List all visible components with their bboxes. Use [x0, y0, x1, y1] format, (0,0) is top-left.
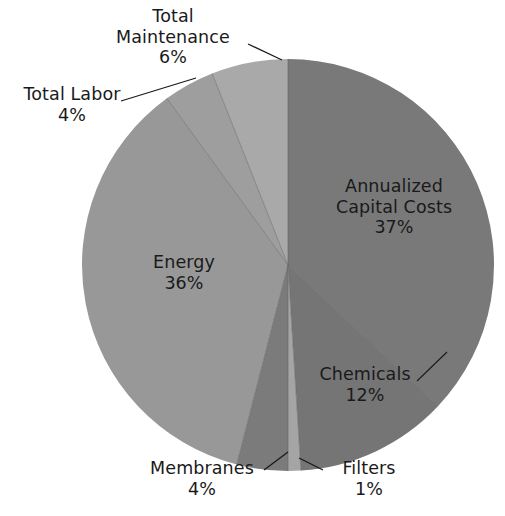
slice-label-energy-line1: Energy: [128, 252, 240, 273]
slice-label-energy: Energy 36%: [128, 252, 240, 293]
slice-label-membranes: Membranes 4%: [137, 458, 267, 499]
slice-value-energy: 36%: [128, 273, 240, 294]
slice-value-filters: 1%: [323, 479, 415, 500]
slice-label-annualized-capital-costs: Annualized Capital Costs 37%: [318, 176, 470, 238]
slice-value-total-labor: 4%: [2, 105, 142, 126]
slice-label-annualized-capital-costs-line1: Annualized: [318, 176, 470, 197]
pie-chart-canvas: [0, 0, 505, 516]
slice-value-membranes: 4%: [137, 479, 267, 500]
slice-label-membranes-line1: Membranes: [137, 458, 267, 479]
slice-label-total-maintenance-line1: Total: [92, 6, 254, 27]
slice-label-total-maintenance-line2: Maintenance: [92, 27, 254, 48]
slice-value-chemicals: 12%: [303, 385, 427, 406]
slice-value-annualized-capital-costs: 37%: [318, 217, 470, 238]
slice-value-total-maintenance: 6%: [92, 47, 254, 68]
slice-label-total-labor: Total Labor 4%: [2, 84, 142, 125]
slice-label-filters-line1: Filters: [323, 458, 415, 479]
slice-label-filters: Filters 1%: [323, 458, 415, 499]
slice-label-chemicals: Chemicals 12%: [303, 364, 427, 405]
slice-label-total-labor-line1: Total Labor: [2, 84, 142, 105]
pie-chart-figure: Total Maintenance 6% Total Labor 4% Ener…: [0, 0, 505, 516]
slice-label-annualized-capital-costs-line2: Capital Costs: [318, 197, 470, 218]
slice-label-chemicals-line1: Chemicals: [303, 364, 427, 385]
slice-label-total-maintenance: Total Maintenance 6%: [92, 6, 254, 68]
